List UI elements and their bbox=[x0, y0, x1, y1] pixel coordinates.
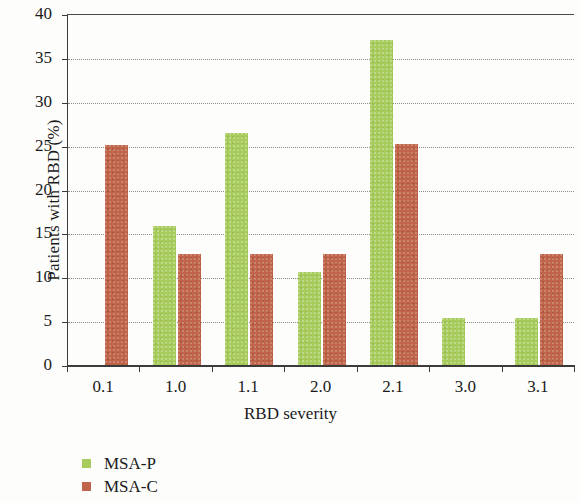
gridline bbox=[68, 59, 574, 60]
y-axis-tick bbox=[62, 191, 68, 192]
bar-msa-p-2.0 bbox=[298, 272, 321, 365]
y-axis-tick-label: 40 bbox=[12, 4, 52, 24]
x-axis-tick-label: 1.1 bbox=[213, 377, 283, 397]
bar-msa-c-0.1 bbox=[105, 145, 128, 365]
y-axis-tick bbox=[62, 322, 68, 323]
bar-chart-figure: Patients with RBD (%) 0510152025303540 0… bbox=[0, 0, 581, 502]
y-axis-tick-label: 5 bbox=[12, 311, 52, 331]
legend-label: MSA-P bbox=[104, 455, 156, 472]
legend-item-msa-c: MSA-C bbox=[82, 475, 158, 498]
gridline bbox=[68, 191, 574, 192]
x-axis-tick bbox=[502, 365, 503, 372]
y-axis-tick bbox=[62, 59, 68, 60]
x-axis-line bbox=[67, 365, 574, 367]
y-axis-tick-label: 10 bbox=[12, 267, 52, 287]
y-axis-tick-label: 0 bbox=[12, 355, 52, 375]
gridline bbox=[68, 278, 574, 279]
x-axis-tick bbox=[284, 365, 285, 372]
x-axis-tick-label: 0.1 bbox=[68, 377, 138, 397]
y-axis-tick bbox=[62, 103, 68, 104]
y-axis-tick-label: 35 bbox=[12, 48, 52, 68]
bar-msa-c-1.1 bbox=[250, 254, 273, 365]
y-axis-tick-label: 20 bbox=[12, 180, 52, 200]
x-axis-tick bbox=[139, 365, 140, 372]
legend: MSA-PMSA-C bbox=[82, 452, 158, 498]
x-axis-tick bbox=[357, 365, 358, 372]
legend-swatch-icon bbox=[82, 459, 91, 468]
bar-msa-p-2.1 bbox=[370, 40, 393, 365]
x-axis-tick-label: 2.1 bbox=[358, 377, 428, 397]
x-axis-tick-label: 2.0 bbox=[286, 377, 356, 397]
bar-msa-c-2.1 bbox=[395, 144, 418, 365]
y-axis-tick bbox=[62, 278, 68, 279]
x-axis-tick bbox=[574, 365, 575, 372]
gridline bbox=[68, 103, 574, 104]
bar-msa-p-1.1 bbox=[225, 133, 248, 365]
y-axis-tick-label: 15 bbox=[12, 223, 52, 243]
x-axis-tick bbox=[429, 365, 430, 372]
y-axis-tick-label: 25 bbox=[12, 136, 52, 156]
y-axis-tick bbox=[62, 234, 68, 235]
bar-msa-p-3.0 bbox=[442, 318, 465, 365]
gridline bbox=[68, 234, 574, 235]
bar-msa-c-1.0 bbox=[178, 254, 201, 365]
gridline bbox=[68, 322, 574, 323]
bar-msa-p-3.1 bbox=[515, 318, 538, 365]
x-axis-tick bbox=[67, 365, 68, 372]
bar-msa-c-3.1 bbox=[540, 254, 563, 365]
y-axis-tick-label: 30 bbox=[12, 92, 52, 112]
x-axis-tick-label: 1.0 bbox=[141, 377, 211, 397]
x-axis-title: RBD severity bbox=[0, 404, 581, 424]
y-axis-tick bbox=[62, 15, 68, 16]
legend-swatch-icon bbox=[82, 482, 91, 491]
plot-area bbox=[67, 14, 574, 365]
x-axis-tick-label: 3.0 bbox=[430, 377, 500, 397]
legend-label: MSA-C bbox=[104, 478, 158, 495]
bar-msa-p-1.0 bbox=[153, 226, 176, 365]
x-axis-tick-label: 3.1 bbox=[503, 377, 573, 397]
legend-item-msa-p: MSA-P bbox=[82, 452, 158, 475]
bar-msa-c-2.0 bbox=[323, 254, 346, 365]
x-axis-tick bbox=[212, 365, 213, 372]
y-axis-tick bbox=[62, 147, 68, 148]
gridline bbox=[68, 147, 574, 148]
